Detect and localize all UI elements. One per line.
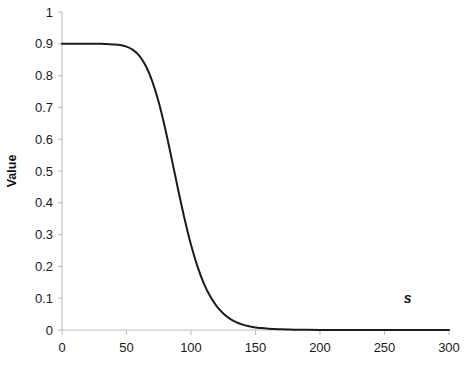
x-tick-label: 50 <box>119 340 133 355</box>
chart-container: 00.10.20.30.40.50.60.70.80.91 0501001502… <box>0 0 471 373</box>
y-tick-label: 0.9 <box>35 36 53 51</box>
x-tick-label: 0 <box>58 340 65 355</box>
data-series-line <box>62 44 449 330</box>
y-tick-label: 0.4 <box>35 195 53 210</box>
y-tick-label: 0.7 <box>35 100 53 115</box>
chart-annotations: s <box>404 290 412 306</box>
x-tick-label: 300 <box>438 340 460 355</box>
y-tick-label: 0.3 <box>35 227 53 242</box>
y-tick-label: 0.1 <box>35 291 53 306</box>
y-tick-label: 0 <box>46 323 53 338</box>
x-tick-label: 250 <box>374 340 396 355</box>
y-tick-label: 0.5 <box>35 164 53 179</box>
y-tick-label: 0.2 <box>35 259 53 274</box>
x-tick-label: 100 <box>180 340 202 355</box>
line-chart: 00.10.20.30.40.50.60.70.80.91 0501001502… <box>0 0 471 373</box>
y-axis-tick-marks <box>58 12 62 330</box>
y-tick-label: 0.6 <box>35 132 53 147</box>
y-tick-label: 1 <box>46 5 53 20</box>
annotation-s-label: s <box>404 290 412 306</box>
y-axis-title: Value <box>5 155 19 188</box>
x-axis-tick-labels: 050100150200250300 <box>58 340 459 355</box>
y-axis-tick-labels: 00.10.20.30.40.50.60.70.80.91 <box>35 5 53 338</box>
y-tick-label: 0.8 <box>35 68 53 83</box>
x-tick-label: 200 <box>309 340 331 355</box>
x-tick-label: 150 <box>245 340 267 355</box>
